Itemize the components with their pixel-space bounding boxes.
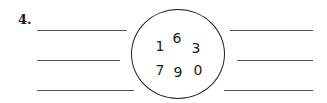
digit-1: 1 — [156, 39, 165, 53]
answer-line-left-2[interactable] — [37, 60, 120, 61]
digit-6: 6 — [173, 31, 182, 45]
answer-line-right-3[interactable] — [224, 90, 313, 91]
problem-number: 4. — [18, 12, 32, 27]
answer-line-left-1[interactable] — [37, 30, 127, 31]
digit-7: 7 — [156, 63, 165, 77]
digit-3: 3 — [192, 41, 201, 55]
digit-9: 9 — [174, 65, 183, 79]
answer-line-right-1[interactable] — [230, 30, 313, 31]
answer-line-left-3[interactable] — [37, 90, 134, 91]
digit-circle — [131, 9, 225, 99]
digit-0: 0 — [194, 63, 203, 77]
answer-line-right-2[interactable] — [237, 60, 313, 61]
